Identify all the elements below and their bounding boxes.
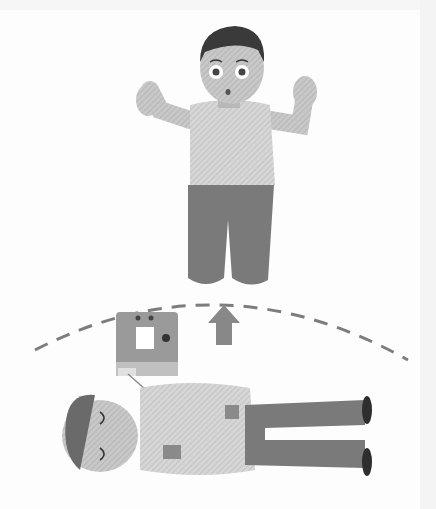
indicator-light-icon [136, 316, 141, 321]
patient-pants [245, 400, 365, 468]
rescuer-figure [136, 26, 317, 285]
shoe-icon [362, 448, 372, 476]
aed-pad [225, 405, 239, 419]
aed-screen [136, 327, 154, 349]
right-hand-icon [293, 76, 317, 108]
left-hand-icon [136, 84, 160, 116]
patient-figure [62, 383, 372, 476]
shoe-icon [362, 396, 372, 424]
shock-button-icon [162, 334, 170, 342]
aed-pad [163, 445, 181, 459]
up-arrow-icon [208, 305, 240, 345]
scene-drawing [0, 0, 436, 509]
illustration-canvas [0, 0, 436, 509]
rescuer-pants [188, 185, 274, 285]
indicator-light-icon [149, 316, 154, 321]
